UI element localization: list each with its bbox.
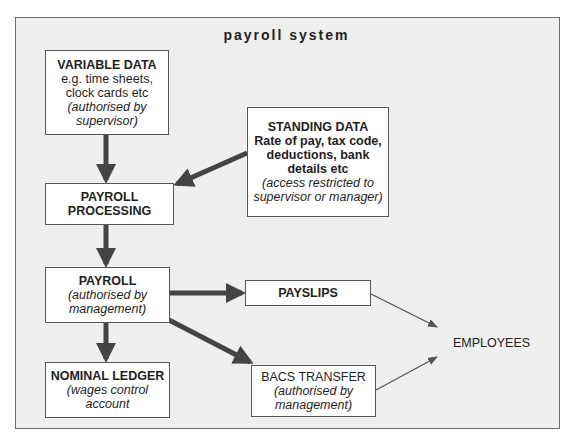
employees-label: EMPLOYEES xyxy=(453,336,530,350)
arrow-standing-to-processing xyxy=(177,153,247,184)
bacs-transfer-note2: management) xyxy=(275,398,352,412)
bacs-transfer-note1: (authorised by xyxy=(274,384,353,398)
nominal-ledger-note2: account xyxy=(86,397,130,411)
bacs-transfer-box: BACS TRANSFER (authorised by management) xyxy=(251,365,376,417)
payslips-box: PAYSLIPS xyxy=(245,280,371,306)
payroll-processing-line1: PAYROLL xyxy=(81,190,139,204)
payroll-box: PAYROLL (authorised by management) xyxy=(45,267,170,323)
variable-data-note1: (authorised by xyxy=(67,100,146,114)
payroll-processing-line2: PROCESSING xyxy=(68,204,151,218)
payroll-processing-box: PAYROLL PROCESSING xyxy=(45,183,174,225)
arrow-bacs-to-employees xyxy=(376,357,437,390)
bacs-transfer-heading: BACS TRANSFER xyxy=(261,370,366,384)
nominal-ledger-note1: (wages control xyxy=(67,383,148,397)
arrow-payroll-to-bacs xyxy=(169,320,250,362)
payslips-heading: PAYSLIPS xyxy=(278,286,338,300)
standing-data-note1: (access restricted to xyxy=(262,176,374,190)
variable-data-box: VARIABLE DATA e.g. time sheets, clock ca… xyxy=(45,50,169,135)
variable-data-line2: clock cards etc xyxy=(66,86,149,100)
standing-data-heading: STANDING DATA xyxy=(268,120,369,134)
nominal-ledger-heading: NOMINAL LEDGER xyxy=(51,369,165,383)
payroll-heading: PAYROLL xyxy=(79,274,137,288)
nominal-ledger-box: NOMINAL LEDGER (wages control account xyxy=(45,362,170,418)
standing-data-line2: deductions, bank xyxy=(267,148,370,162)
standing-data-box: STANDING DATA Rate of pay, tax code, ded… xyxy=(247,107,389,217)
standing-data-line3: details etc xyxy=(287,162,348,176)
variable-data-note2: supervisor) xyxy=(76,114,138,128)
variable-data-line1: e.g. time sheets, xyxy=(61,72,153,86)
arrow-payslips-to-employees xyxy=(371,294,437,327)
standing-data-line1: Rate of pay, tax code, xyxy=(254,134,382,148)
variable-data-heading: VARIABLE DATA xyxy=(57,58,156,72)
standing-data-note2: supervisor or manager) xyxy=(253,190,382,204)
payroll-note1: (authorised by xyxy=(68,288,147,302)
payroll-note2: management) xyxy=(69,302,146,316)
